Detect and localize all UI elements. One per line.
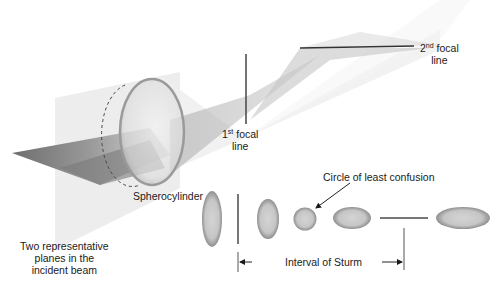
vertical-ellipse-at-lens bbox=[202, 191, 222, 247]
circle-of-least-confusion-label: Circle of least confusion bbox=[323, 171, 434, 183]
spherocylinder-label: Spherocylinder bbox=[133, 190, 203, 202]
horizontal-ellipse bbox=[333, 207, 371, 229]
cross-sections bbox=[202, 191, 490, 247]
incident-planes-label: Two representative planes in the inciden… bbox=[20, 240, 109, 276]
least-confusion-pointer bbox=[316, 183, 350, 208]
first-focal-line-label: 1st focal line bbox=[222, 128, 258, 152]
horizontal-ellipse-beyond bbox=[436, 207, 490, 229]
vertical-beam bbox=[160, 0, 470, 175]
second-focal-line-label: 2nd focal line bbox=[420, 42, 459, 66]
circle-of-least-confusion bbox=[294, 208, 317, 231]
interval-of-sturm-label: Interval of Sturm bbox=[285, 256, 362, 268]
vertical-ellipse bbox=[257, 199, 279, 239]
